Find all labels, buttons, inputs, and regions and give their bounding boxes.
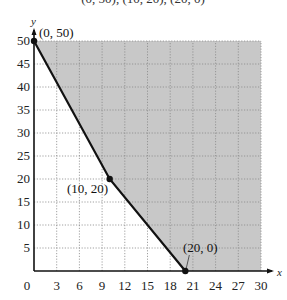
feasible-region-chart: (0, 50), (10, 20), (20, 0) 0369121518212…: [0, 0, 287, 300]
y-tick-label: 20: [17, 171, 30, 186]
y-tick-label: 50: [17, 33, 30, 48]
y-axis-label: y: [30, 15, 36, 27]
x-tick-label: 6: [76, 278, 83, 293]
y-tick-label: 5: [24, 240, 31, 255]
vertex-point: [182, 268, 188, 274]
x-tick-label: 0: [24, 278, 31, 293]
x-tick-label: 12: [118, 278, 131, 293]
y-tick-label: 10: [17, 217, 30, 232]
y-tick-label: 40: [17, 79, 30, 94]
x-axis-label: x: [276, 266, 282, 278]
vertex-label-10-20: (10, 20): [67, 181, 108, 196]
x-tick-label: 18: [164, 278, 177, 293]
y-tick-labels: 5101520253035404550: [17, 33, 30, 255]
x-tick-label: 21: [186, 278, 199, 293]
x-tick-label: 9: [99, 278, 106, 293]
x-axis-arrow-icon: [267, 269, 274, 274]
x-tick-label: 30: [255, 278, 268, 293]
y-tick-label: 45: [17, 56, 30, 71]
vertex-label-0-50: (0, 50): [39, 25, 74, 40]
vertex-label-20-0: (20, 0): [183, 240, 218, 255]
caption-fragment: (0, 50), (10, 20), (20, 0): [81, 0, 204, 6]
y-tick-label: 15: [17, 194, 30, 209]
x-tick-label: 15: [141, 278, 154, 293]
x-tick-label: 24: [209, 278, 223, 293]
x-tick-label: 3: [53, 278, 60, 293]
y-tick-label: 30: [17, 125, 30, 140]
vertex-point: [31, 38, 37, 44]
y-tick-label: 25: [17, 148, 30, 163]
x-tick-labels: 036912151821242730: [24, 278, 268, 293]
y-axis-arrow-icon: [32, 28, 37, 35]
x-tick-label: 27: [232, 278, 246, 293]
y-tick-label: 35: [17, 102, 30, 117]
